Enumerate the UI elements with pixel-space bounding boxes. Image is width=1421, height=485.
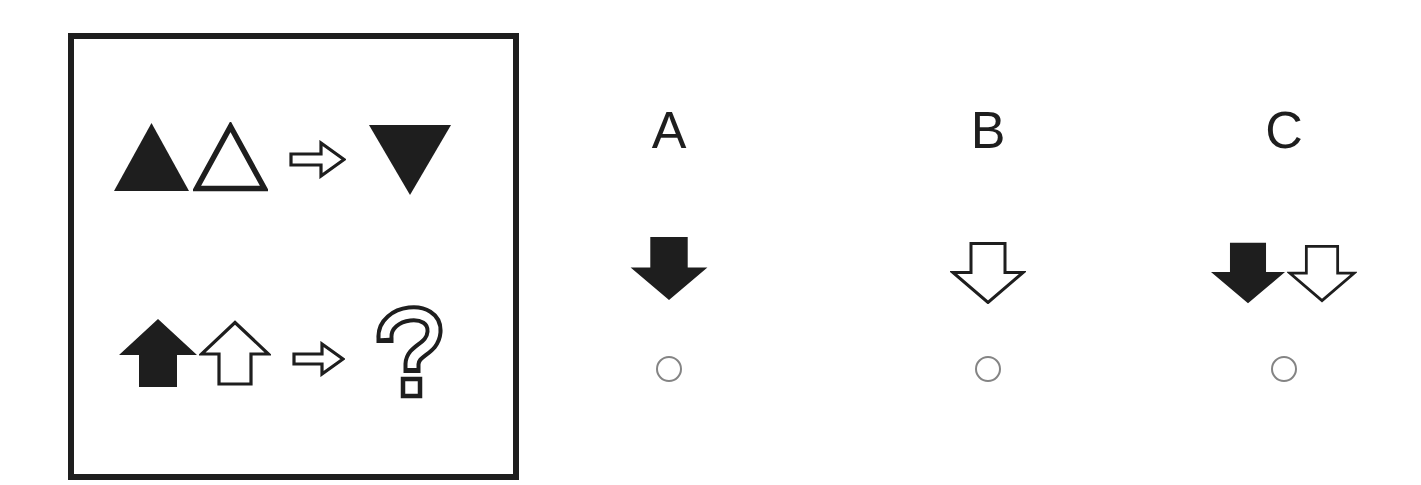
option-b: B — [888, 0, 1088, 485]
option-a-figure — [569, 237, 769, 300]
arrow-up-outline-icon — [199, 320, 271, 386]
triangle-up-outline-icon — [193, 122, 268, 192]
option-a-radio[interactable] — [656, 356, 682, 382]
arrow-down-outline-icon — [1287, 243, 1357, 304]
arrow-down-filled-icon — [1211, 240, 1285, 306]
option-a: A — [569, 0, 769, 485]
quiz-canvas: A B C — [0, 0, 1421, 485]
option-c: C — [1184, 0, 1384, 485]
triangle-down-filled-icon — [368, 124, 452, 196]
stimulus-box — [68, 33, 519, 480]
arrow-down-filled-icon — [630, 237, 708, 300]
option-c-figure — [1184, 240, 1384, 306]
triangle-up-filled-icon — [113, 122, 190, 192]
option-c-radio[interactable] — [1271, 356, 1297, 382]
arrow-right-icon — [292, 341, 345, 377]
option-c-label: C — [1184, 104, 1384, 156]
question-mark-icon — [368, 304, 443, 402]
option-b-label: B — [888, 104, 1088, 156]
arrow-right-icon — [289, 140, 346, 179]
arrow-up-filled-icon — [119, 319, 197, 387]
option-a-label: A — [569, 104, 769, 156]
arrow-down-outline-icon — [950, 242, 1026, 304]
option-b-radio[interactable] — [975, 356, 1001, 382]
option-b-figure — [888, 242, 1088, 304]
